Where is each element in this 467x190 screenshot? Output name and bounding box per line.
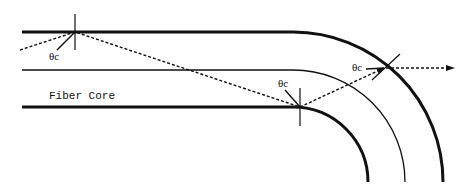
angle-label-3: θc <box>352 61 362 73</box>
angle-leader-1 <box>57 32 75 50</box>
lower-core-boundary <box>22 107 368 182</box>
angle-label-1: θc <box>49 50 59 62</box>
core-center-line <box>22 70 405 182</box>
angle-label-2: θc <box>278 77 288 89</box>
fiber-core-label: Fiber Core <box>49 90 115 102</box>
fiber-bend-diagram: θc θc θc Fiber Core <box>0 0 467 190</box>
angle-leader-3 <box>366 68 384 69</box>
arrow-right-icon <box>446 65 455 71</box>
